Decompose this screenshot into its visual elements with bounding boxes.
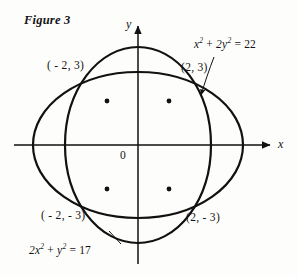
equation-wide-plus: + xyxy=(206,38,213,50)
origin-label: 0 xyxy=(120,150,126,162)
equation-wide-exp-b: 2 xyxy=(227,36,231,45)
equation-wide-equals: = xyxy=(234,38,241,50)
equation-label-tall-ellipse: 2x2 + y2 = 17 xyxy=(29,245,91,257)
equation-tall-term-a: 2x xyxy=(29,244,40,256)
equation-label-wide-ellipse: x2 + 2y2 = 22 xyxy=(194,39,256,51)
intersection-point-bottom-left xyxy=(105,187,110,192)
intersection-point-top-left xyxy=(105,99,110,104)
leader-line-tall-ellipse xyxy=(109,231,121,244)
equation-wide-term-b: 2y xyxy=(216,38,227,50)
equation-tall-exp-a: 2 xyxy=(40,242,44,251)
intersection-point-top-right xyxy=(167,99,172,104)
point-label-top-left: ( - 2, 3) xyxy=(47,60,84,72)
figure-3-graph: Figure 3 y x 0 ( - 2, 3) (2, 3) ( - 2, -… xyxy=(0,0,298,277)
y-axis-label: y xyxy=(126,18,131,30)
equation-wide-exp-a: 2 xyxy=(199,36,203,45)
equation-tall-equals: = xyxy=(69,244,76,256)
point-label-top-right: (2, 3) xyxy=(181,62,208,74)
equation-tall-rhs: 17 xyxy=(79,244,91,256)
figure-caption: Figure 3 xyxy=(24,14,70,27)
equation-tall-exp-b: 2 xyxy=(62,242,66,251)
intersection-point-bottom-right xyxy=(167,187,172,192)
equation-tall-plus: + xyxy=(47,244,54,256)
point-label-bottom-right: (2, - 3) xyxy=(186,212,220,224)
equation-wide-rhs: 22 xyxy=(244,38,256,50)
x-axis-label: x xyxy=(278,138,283,150)
point-label-bottom-left: ( - 2, - 3) xyxy=(41,210,86,222)
